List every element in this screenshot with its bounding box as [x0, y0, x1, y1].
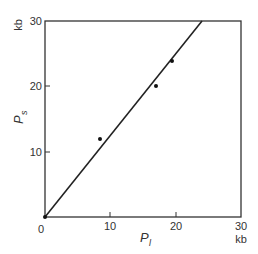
data-point [43, 215, 47, 219]
fit-line [45, 21, 202, 217]
x-tick-0: 0 [38, 223, 44, 235]
y-axis-label: P s [11, 110, 29, 124]
x-axis-label: P l [140, 230, 152, 248]
y-tick-30: 30 [30, 15, 42, 27]
svg-text:l: l [149, 238, 152, 248]
axis-ticks [45, 86, 176, 217]
y-tick-10: 10 [30, 146, 42, 158]
data-point [98, 137, 102, 141]
x-tick-10: 10 [104, 220, 116, 232]
data-point [170, 59, 174, 63]
y-unit: kb [12, 19, 24, 31]
y-tick-20: 20 [30, 80, 42, 92]
x-tick-20: 20 [170, 220, 182, 232]
chart: 0 10 20 30 kb 10 20 30 kb P l P s [0, 0, 258, 254]
x-unit: kb [235, 233, 247, 245]
svg-text:P: P [140, 230, 149, 245]
x-tick-30: 30 [235, 220, 247, 232]
plot-frame [45, 21, 241, 217]
svg-text:s: s [19, 110, 29, 115]
svg-text:P: P [11, 115, 26, 124]
data-point [154, 84, 158, 88]
